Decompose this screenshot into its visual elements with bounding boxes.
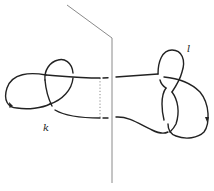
left-knot-loop-back	[45, 80, 52, 106]
label-k: k	[43, 122, 49, 133]
left-outer-loop	[6, 74, 50, 109]
right-knot-lower-lobe-left	[162, 88, 166, 120]
left-knot-loop-front	[50, 78, 73, 104]
label-l: l	[187, 43, 190, 54]
right-lower-strand	[116, 117, 168, 133]
right-knot-lower-lobe-right	[170, 92, 178, 132]
knot-diagram: k l	[0, 0, 214, 191]
right-knot-l	[116, 50, 209, 138]
left-knot-k	[6, 60, 100, 118]
right-upper-strand	[116, 74, 158, 77]
right-knot-diagonal	[160, 80, 166, 88]
left-lower-strand	[55, 110, 100, 118]
right-knot-upper-loop	[158, 50, 184, 92]
plane-edge	[67, 5, 112, 183]
right-knot-cross-strand	[164, 77, 208, 138]
separating-plane	[67, 5, 112, 183]
